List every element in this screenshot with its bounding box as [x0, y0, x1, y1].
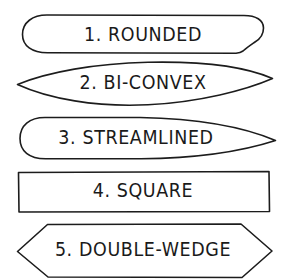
shape-label-rounded: 1. ROUNDED	[0, 25, 286, 45]
shape-label-double-wedge: 5. DOUBLE-WEDGE	[0, 240, 286, 260]
shape-label-bi-convex: 2. BI-CONVEX	[0, 73, 286, 93]
shape-diagram: 1. ROUNDED 2. BI-CONVEX 3. STREAMLINED 4…	[0, 0, 286, 280]
shape-label-streamlined: 3. STREAMLINED	[0, 128, 272, 148]
shape-label-square: 4. SQUARE	[0, 181, 286, 201]
